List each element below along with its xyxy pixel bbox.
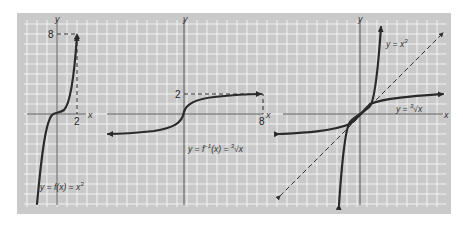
y-tick-label-2: 2 bbox=[175, 89, 181, 100]
x-tick-label-2: 2 bbox=[74, 116, 80, 127]
y-axis-label: y bbox=[54, 14, 60, 24]
x-tick-label-8: 8 bbox=[259, 116, 265, 127]
x-axis-label: x bbox=[87, 110, 93, 120]
equation-label-inverse: y = f−1(x) = 3√x bbox=[187, 143, 244, 154]
y-axis-label: y bbox=[182, 14, 188, 24]
function-inverse-figure: y x 8 2 y = f(x) = x3 y x 2 8 y = f−1(x)… bbox=[0, 0, 463, 226]
equation-label-cube: y = f(x) = x3 bbox=[39, 181, 84, 192]
x-axis-label: x bbox=[443, 110, 449, 120]
y-axis-label: y bbox=[357, 14, 363, 24]
y-tick-label-8: 8 bbox=[48, 29, 54, 40]
curve-label-root: y = 3√x bbox=[395, 103, 423, 114]
x-axis-label: x bbox=[265, 110, 271, 120]
